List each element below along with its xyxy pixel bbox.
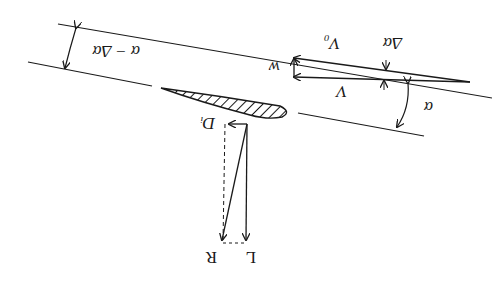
label-alpha: α (423, 98, 433, 117)
angle-arc-alpha (397, 83, 408, 127)
label-w: w (268, 58, 280, 77)
label-delta-alpha: Δα (382, 34, 403, 53)
airfoil-shape (161, 88, 287, 118)
label-L: L (246, 248, 256, 267)
R-vector (222, 124, 247, 240)
Di-dashed-line (223, 124, 225, 242)
label-R: R (205, 248, 217, 267)
label-Di: Dᵢ (200, 114, 216, 133)
lower-reference-line-right (298, 113, 424, 136)
L-vector (246, 124, 247, 240)
label-alpha-minus-delta-alpha: α − Δα (91, 42, 140, 61)
angle-arc-alpha-minus-delta (65, 28, 76, 68)
diagram-canvas: α − Δα Δα V₀ w V α Dᵢ L R (0, 0, 492, 282)
induced-drag-diagram: α − Δα Δα V₀ w V α Dᵢ L R (0, 0, 492, 282)
lower-reference-line-left (28, 62, 152, 86)
label-V: V (334, 82, 347, 101)
label-V0: V₀ (324, 34, 340, 53)
